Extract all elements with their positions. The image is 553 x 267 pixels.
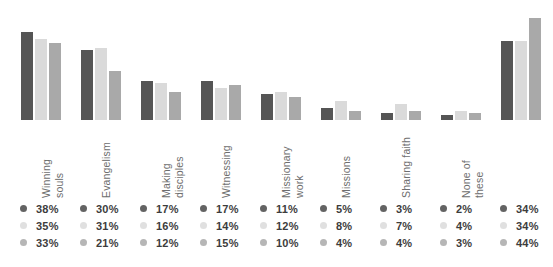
legend-value: 14% [216,220,239,232]
legend-dot-icon [500,239,507,246]
legend-row: 4% [440,217,498,234]
legend-row: 12% [140,234,198,251]
legend-column: 2%4%3% [440,200,498,251]
bar [381,113,393,120]
legend-dot-icon [380,205,387,212]
bar [261,94,273,120]
legend-value: 5% [336,203,352,215]
legend-value: 3% [456,237,472,249]
legend-dot-icon [200,239,207,246]
legend-value: 2% [456,203,472,215]
legend-dot-icon [20,222,27,229]
legend-row: 10% [260,234,318,251]
bar [95,48,107,120]
bar [501,41,513,120]
legend-dot-icon [500,222,507,229]
bar-group [501,16,543,120]
category-label: Missionary work [280,120,322,198]
legend-row: 30% [80,200,138,217]
bar [409,111,421,120]
legend-dot-icon [80,239,87,246]
legend-column: 17%16%12% [140,200,198,251]
legend-dot-icon [80,205,87,212]
bar [201,81,213,120]
legend-value: 34% [516,220,539,232]
bar-group [381,16,423,120]
legend-dot-icon [320,239,327,246]
legend-value: 4% [396,237,412,249]
legend-column: 30%31%21% [80,200,138,251]
legend-row: 35% [20,217,78,234]
legend-row: 15% [200,234,258,251]
legend-row: 5% [320,200,378,217]
legend-dot-icon [140,205,147,212]
legend-dot-icon [80,222,87,229]
legend-value: 30% [96,203,119,215]
grouped-bar-chart: ConvertWinning soulsEvangelismMaking dis… [0,0,553,267]
legend-dot-icon [260,239,267,246]
bar [529,18,541,120]
legend-value: 12% [276,220,299,232]
bar [49,43,61,120]
legend-dot-icon [140,222,147,229]
bar-group [321,16,363,120]
legend-row: 4% [380,234,438,251]
legend-value-table: 38%35%33%30%31%21%17%16%12%17%14%15%11%1… [0,200,553,267]
legend-row: 17% [140,200,198,217]
legend-dot-icon [440,205,447,212]
bar [169,92,181,120]
legend-value: 35% [36,220,59,232]
legend-value: 12% [156,237,179,249]
bar [229,85,241,120]
bar-group [141,16,183,120]
bar-group [441,16,483,120]
bar [109,71,121,120]
legend-dot-icon [380,239,387,246]
legend-row: 3% [380,200,438,217]
legend-dot-icon [440,222,447,229]
bar [469,113,481,120]
legend-value: 8% [336,220,352,232]
legend-column: 34%34%44% [500,200,553,251]
legend-value: 15% [216,237,239,249]
bar [21,32,33,120]
legend-dot-icon [440,239,447,246]
legend-value: 10% [276,237,299,249]
legend-value: 44% [516,237,539,249]
category-axis-labels: ConvertWinning soulsEvangelismMaking dis… [0,120,553,198]
legend-value: 17% [216,203,239,215]
legend-value: 16% [156,220,179,232]
legend-row: 14% [200,217,258,234]
category-label: None of these [460,120,502,198]
legend-dot-icon [320,205,327,212]
bar [81,50,93,120]
legend-value: 4% [336,237,352,249]
legend-column: 17%14%15% [200,200,258,251]
bar-group [21,16,63,120]
bar-group [261,16,303,120]
plot-area [0,0,553,120]
legend-row: 7% [380,217,438,234]
legend-value: 21% [96,237,119,249]
legend-dot-icon [20,239,27,246]
legend-row: 17% [200,200,258,217]
category-label: Missions [340,120,382,198]
legend-column: 3%7%4% [380,200,438,251]
bar [395,104,407,120]
legend-value: 34% [516,203,539,215]
bar [215,88,227,120]
bar [289,97,301,120]
bar [515,41,527,120]
legend-row: 3% [440,234,498,251]
legend-column: 38%35%33% [20,200,78,251]
category-label: Sharing faith [400,120,442,198]
legend-dot-icon [200,222,207,229]
legend-value: 33% [36,237,59,249]
legend-column: 11%12%10% [260,200,318,251]
category-label: Evangelism [100,120,142,198]
bar [35,39,47,120]
category-label: Witnessing [220,120,262,198]
legend-value: 38% [36,203,59,215]
legend-column: 5%8%4% [320,200,378,251]
legend-dot-icon [260,222,267,229]
